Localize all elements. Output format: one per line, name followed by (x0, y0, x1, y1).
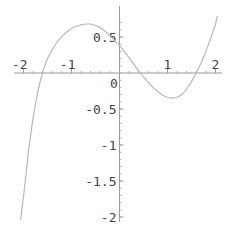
y-tick-label: -2 (101, 210, 117, 225)
x-tick-label: -2 (12, 57, 28, 72)
x-tick-label: -1 (60, 57, 76, 72)
axes (14, 6, 222, 222)
series-line (21, 16, 218, 220)
y-tick-label: -0.5 (85, 102, 116, 117)
y-tick-labels: 0.5-0.5-1-1.5-2 (85, 30, 123, 225)
y-tick-label: 0.5 (93, 30, 116, 45)
y-tick-label: -1.5 (85, 174, 116, 189)
chart-plot-area: -2-112 0.5-0.5-1-1.5-2 0 (0, 0, 230, 239)
origin-label: 0 (110, 76, 118, 91)
y-tick-label: -1 (101, 138, 117, 153)
